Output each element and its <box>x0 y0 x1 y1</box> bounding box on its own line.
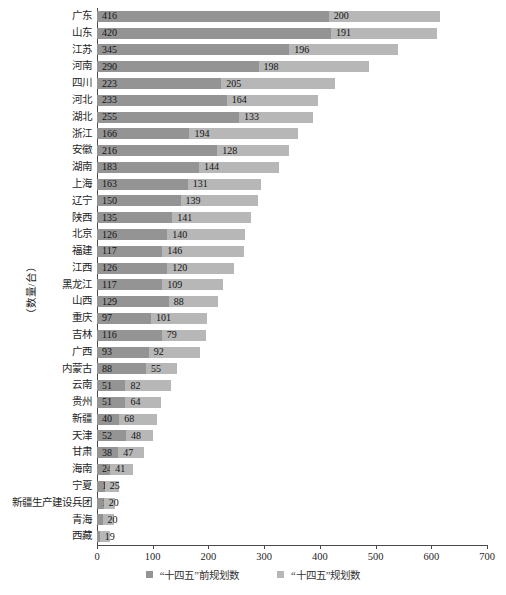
bar-segment-plan: 82 <box>125 380 171 391</box>
value-label: 55 <box>151 364 161 374</box>
category-label: 天津 <box>3 431 97 442</box>
value-label: 40 <box>102 414 112 424</box>
value-label: 150 <box>102 196 117 206</box>
bar-segment-plan: 41 <box>110 464 133 475</box>
value-label: 255 <box>102 112 117 122</box>
bar-segment-plan: 55 <box>146 363 177 374</box>
category-label: 重庆 <box>3 313 97 324</box>
bar-track: 183144 <box>97 162 487 173</box>
bar-segment-pre-plan: 233 <box>97 95 227 106</box>
bar-track: 216128 <box>97 145 487 156</box>
bar-track: 5182 <box>97 380 487 391</box>
bar-row: 新疆生产建设兵团1220 <box>3 495 487 512</box>
x-axis-tick <box>487 545 488 549</box>
value-label: 140 <box>172 230 187 240</box>
value-label: 52 <box>102 431 112 441</box>
bar-row: 上海163131 <box>3 176 487 193</box>
x-axis-tick <box>153 545 154 549</box>
bar-row: 河南290198 <box>3 58 487 75</box>
category-label: 湖北 <box>3 112 97 123</box>
bar-track: 8855 <box>97 363 487 374</box>
value-label: 166 <box>102 129 117 139</box>
bar-segment-plan: 20 <box>103 514 114 525</box>
legend-marker-icon <box>277 571 284 578</box>
value-label: 146 <box>167 246 182 256</box>
bar-track: 416200 <box>97 11 487 22</box>
category-label: 西藏 <box>3 531 97 542</box>
value-label: 79 <box>167 330 177 340</box>
value-label: 117 <box>102 246 117 256</box>
bar-track: 126120 <box>97 263 487 274</box>
bar-segment-plan: 120 <box>167 263 234 274</box>
bar-row: 湖北255133 <box>3 109 487 126</box>
bar-track: 223205 <box>97 78 487 89</box>
bar-track: 2441 <box>97 464 487 475</box>
value-label: 133 <box>244 112 259 122</box>
value-label: 345 <box>102 45 117 55</box>
value-label: 116 <box>102 330 117 340</box>
value-label: 183 <box>102 162 117 172</box>
bar-segment-pre-plan: 183 <box>97 162 199 173</box>
bar-segment-pre-plan: 290 <box>97 61 259 72</box>
bar-segment-plan: 79 <box>162 330 206 341</box>
bar-track: 135141 <box>97 212 487 223</box>
value-label: 163 <box>102 179 117 189</box>
value-label: 196 <box>294 45 309 55</box>
x-axis-tick-label: 700 <box>479 551 495 562</box>
bar-segment-plan: 92 <box>149 347 200 358</box>
bar-segment-plan: 140 <box>167 229 245 240</box>
x-axis-tick-label: 100 <box>145 551 161 562</box>
bar-track: 290198 <box>97 61 487 72</box>
bar-segment-pre-plan: 51 <box>97 397 125 408</box>
x-axis-tick <box>264 545 265 549</box>
bar-segment-pre-plan: 14 <box>97 481 105 492</box>
value-label: 144 <box>204 162 219 172</box>
bar-segment-pre-plan: 40 <box>97 414 119 425</box>
x-axis-tick-label: 200 <box>201 551 217 562</box>
bar-segment-plan: 205 <box>221 78 335 89</box>
bar-row: 四川223205 <box>3 75 487 92</box>
bar-track: 5248 <box>97 430 487 441</box>
bar-track: 1020 <box>97 514 487 525</box>
category-label: 福建 <box>3 246 97 257</box>
bar-row: 福建117146 <box>3 243 487 260</box>
value-label: 139 <box>186 196 201 206</box>
bar-track: 117146 <box>97 246 487 257</box>
category-label: 江苏 <box>3 45 97 56</box>
value-label: 38 <box>102 448 112 458</box>
value-label: 48 <box>131 431 141 441</box>
bar-row: 西藏519 <box>3 528 487 545</box>
legend-item-2: “十四五”规划数 <box>277 567 360 582</box>
bar-track: 1425 <box>97 481 487 492</box>
bar-segment-pre-plan: 126 <box>97 263 167 274</box>
value-label: 88 <box>174 297 184 307</box>
bar-track: 420191 <box>97 28 487 39</box>
bar-row: 浙江166194 <box>3 125 487 142</box>
bar-segment-pre-plan: 163 <box>97 179 188 190</box>
x-axis-tick <box>320 545 321 549</box>
bar-track: 163131 <box>97 179 487 190</box>
category-label: 江西 <box>3 263 97 274</box>
bar-segment-plan: 139 <box>181 195 258 206</box>
bar-segment-plan: 146 <box>162 246 243 257</box>
bar-segment-plan: 131 <box>188 179 261 190</box>
bar-row: 河北233164 <box>3 92 487 109</box>
bar-segment-plan: 198 <box>259 61 369 72</box>
bar-segment-plan: 64 <box>125 397 161 408</box>
bar-segment-pre-plan: 126 <box>97 229 167 240</box>
bar-row: 吉林11679 <box>3 327 487 344</box>
value-label: 194 <box>194 129 209 139</box>
bar-segment-plan: 141 <box>172 212 251 223</box>
bar-segment-pre-plan: 216 <box>97 145 217 156</box>
bar-segment-pre-plan: 135 <box>97 212 172 223</box>
bar-track: 1220 <box>97 498 487 509</box>
bar-track: 233164 <box>97 95 487 106</box>
bar-segment-pre-plan: 255 <box>97 112 239 123</box>
value-label: 117 <box>102 280 117 290</box>
bar-segment-pre-plan: 416 <box>97 11 329 22</box>
bar-segment-pre-plan: 51 <box>97 380 125 391</box>
category-label: 北京 <box>3 229 97 240</box>
value-label: 109 <box>167 280 182 290</box>
value-label: 51 <box>102 381 112 391</box>
bar-row: 海南2441 <box>3 461 487 478</box>
